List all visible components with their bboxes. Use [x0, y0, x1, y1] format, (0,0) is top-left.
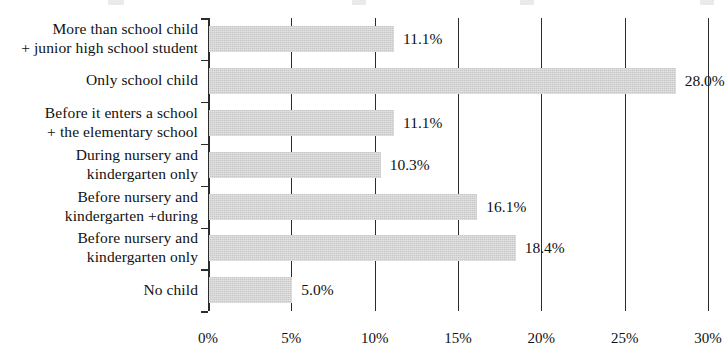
- category-label-line: More than school child: [0, 19, 198, 38]
- plot-area: 11.1%28.0%11.1%10.3%16.1%18.4%5.0%: [208, 0, 708, 311]
- x-tick-label-30%: 30%: [694, 330, 722, 347]
- category-axis-tick: [201, 186, 208, 188]
- category-label: Only school child: [0, 70, 198, 89]
- x-tick-label-0%: 0%: [198, 330, 218, 347]
- bar: [209, 110, 394, 136]
- bar-value-label: 28.0%: [685, 68, 725, 94]
- category-axis-tick: [201, 269, 208, 271]
- value-axis-tick-labels: 0%5%10%15%20%25%30%: [208, 330, 708, 354]
- gridline-25%: [625, 18, 626, 311]
- category-label-line: No child: [0, 280, 198, 299]
- category-label-line: Before it enters a school: [0, 103, 198, 122]
- category-label-line: Before nursery and: [0, 228, 198, 247]
- horizontal-bar-chart: More than school child+ junior high scho…: [0, 0, 728, 358]
- bar: [209, 277, 292, 303]
- category-axis-tick: [201, 102, 208, 104]
- bar-value-label: 11.1%: [403, 110, 442, 136]
- x-tick-label-15%: 15%: [444, 330, 472, 347]
- category-axis-labels: More than school child+ junior high scho…: [0, 0, 204, 358]
- bar: [209, 194, 477, 220]
- bar: [209, 26, 394, 52]
- gridline-30%: [708, 18, 709, 311]
- x-tick-label-10%: 10%: [361, 330, 389, 347]
- bar-value-label: 10.3%: [390, 152, 430, 178]
- bar-value-label: 5.0%: [301, 277, 333, 303]
- x-tick-label-25%: 25%: [611, 330, 639, 347]
- bar: [209, 68, 676, 94]
- category-axis-tick: [201, 228, 208, 230]
- x-tick-label-20%: 20%: [528, 330, 556, 347]
- category-label: More than school child+ junior high scho…: [0, 19, 198, 57]
- category-label: No child: [0, 280, 198, 299]
- bar-value-label: 16.1%: [486, 194, 526, 220]
- category-label: Before it enters a school+ the elementar…: [0, 103, 198, 141]
- bar: [209, 235, 516, 261]
- category-label-line: kindergarten +during: [0, 206, 198, 225]
- category-label: Before nursery andkindergarten only: [0, 228, 198, 266]
- x-tick-label-5%: 5%: [281, 330, 301, 347]
- category-axis-tick: [201, 60, 208, 62]
- category-label-line: + the elementary school: [0, 122, 198, 141]
- category-label-line: kindergarten only: [0, 164, 198, 183]
- category-label-line: Before nursery and: [0, 187, 198, 206]
- bar: [209, 152, 381, 178]
- category-label-line: Only school child: [0, 70, 198, 89]
- category-label-line: During nursery and: [0, 145, 198, 164]
- bar-value-label: 11.1%: [403, 26, 442, 52]
- category-label: Before nursery andkindergarten +during: [0, 187, 198, 225]
- category-label: During nursery andkindergarten only: [0, 145, 198, 183]
- category-label-line: kindergarten only: [0, 247, 198, 266]
- bar-value-label: 18.4%: [525, 235, 565, 261]
- category-axis-tick: [201, 311, 208, 313]
- category-label-line: + junior high school student: [0, 38, 198, 57]
- gridline-15%: [458, 18, 459, 311]
- category-axis-tick: [201, 144, 208, 146]
- gridline-20%: [541, 18, 542, 311]
- category-axis-tick: [201, 18, 208, 20]
